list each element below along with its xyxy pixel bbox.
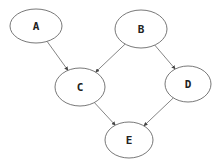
nodes: ABCDE: [10, 9, 211, 158]
node-label: A: [33, 20, 40, 33]
arrow-line: [94, 103, 115, 126]
node-label: C: [77, 81, 84, 94]
arrow-line: [144, 98, 173, 126]
edge-c-e: [94, 103, 115, 126]
graph: ABCDE: [0, 0, 218, 161]
arrow-line: [96, 44, 126, 72]
node-label: E: [126, 134, 133, 147]
node-a: A: [10, 9, 62, 43]
edge-b-c: [96, 44, 126, 72]
node-label: D: [185, 78, 192, 91]
arrow-line: [155, 45, 175, 69]
edge-a-c: [47, 41, 68, 70]
edge-b-d: [155, 45, 175, 69]
node-c: C: [55, 68, 105, 106]
node-e: E: [105, 122, 153, 158]
node-label: B: [138, 23, 145, 36]
arrow-line: [47, 41, 68, 70]
node-b: B: [115, 10, 167, 48]
node-d: D: [165, 66, 211, 102]
diagram-canvas: ABCDE: [0, 0, 218, 161]
edge-d-e: [144, 98, 173, 126]
